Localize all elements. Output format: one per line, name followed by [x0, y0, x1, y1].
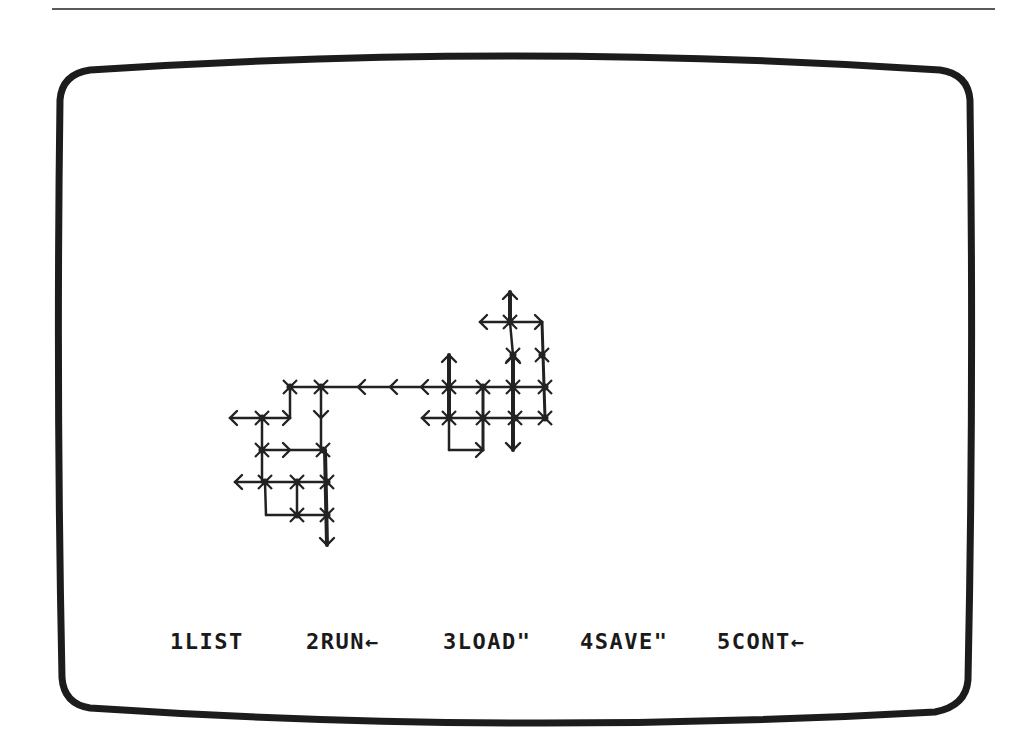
function-key-cont[interactable]: 5CONT←: [717, 629, 805, 656]
function-key-list[interactable]: 1LIST: [170, 629, 244, 656]
graph-edge: [325, 450, 327, 545]
function-key-bar: 1LIST2RUN←3LOAD"4SAVE"5CONT←: [0, 628, 1019, 658]
graph-edge: [510, 322, 513, 355]
maze-graph: [230, 292, 552, 545]
function-key-load[interactable]: 3LOAD": [443, 629, 531, 656]
graph-edge: [265, 482, 266, 515]
function-key-save[interactable]: 4SAVE": [580, 629, 668, 656]
graph-edge: [542, 322, 545, 418]
function-key-run[interactable]: 2RUN←: [306, 629, 380, 656]
